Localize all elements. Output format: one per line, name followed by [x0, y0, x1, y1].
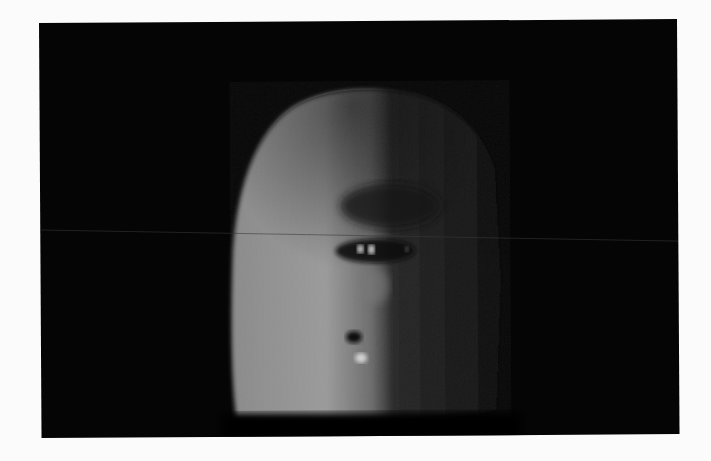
nose	[362, 268, 390, 304]
photograph	[39, 19, 680, 438]
nostril	[346, 331, 362, 343]
face-sculpture	[39, 19, 680, 438]
lip-highlight	[355, 353, 367, 363]
